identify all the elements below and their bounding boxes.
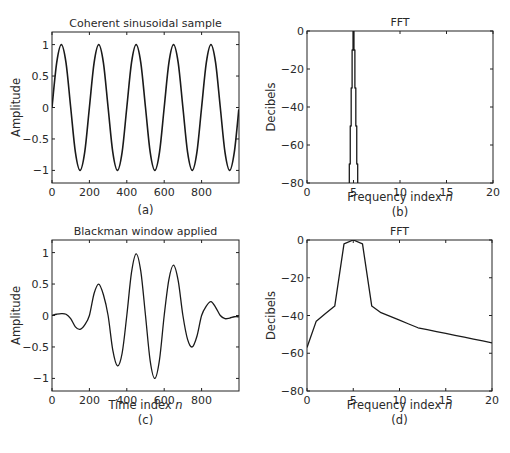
axes-frame xyxy=(307,31,493,183)
y-tick-label: −80 xyxy=(281,177,304,190)
y-tick-label: −1 xyxy=(33,164,49,177)
y-axis-label: Amplitude xyxy=(9,78,23,137)
y-tick-label: 0 xyxy=(42,310,49,323)
y-tick-label: −40 xyxy=(281,310,304,323)
x-tick-label: 0 xyxy=(304,394,311,407)
y-tick-label: 0 xyxy=(297,25,304,38)
panel-caption: (c) xyxy=(138,413,153,427)
y-tick-label: −60 xyxy=(281,139,304,152)
x-axis-label: Time index n xyxy=(107,398,182,412)
panel-b: 051015200−20−40−60−80FFTDecibelsFrequenc… xyxy=(264,16,500,219)
y-tick-label: 0.5 xyxy=(32,278,50,291)
y-tick-label: −20 xyxy=(281,272,304,285)
y-tick-label: −60 xyxy=(281,347,304,360)
panel-d: 051015200−20−40−60−80FFTDecibelsFrequenc… xyxy=(264,225,499,427)
panel-c: 020040060080010.50−0.5−1Blackman window … xyxy=(9,225,239,427)
data-series-line xyxy=(349,31,357,183)
chart-title: Coherent sinusoidal sample xyxy=(69,17,222,30)
chart-title: FFT xyxy=(390,16,409,29)
data-series-line xyxy=(52,45,239,171)
y-tick-label: 0.5 xyxy=(32,70,50,83)
data-series-line xyxy=(307,240,492,348)
x-tick-label: 800 xyxy=(191,186,212,199)
data-series-line xyxy=(52,254,239,379)
y-axis-label: Decibels xyxy=(264,82,278,131)
y-tick-label: 0 xyxy=(42,102,49,115)
x-tick-label: 20 xyxy=(486,186,500,199)
y-tick-label: 0 xyxy=(297,234,304,247)
y-tick-label: 1 xyxy=(42,39,49,52)
axes-frame xyxy=(307,240,492,391)
x-axis-label: Frequency index n xyxy=(347,398,452,412)
y-tick-label: 1 xyxy=(42,247,49,260)
x-tick-label: 800 xyxy=(191,394,212,407)
panel-a: 020040060080010.50−0.5−1Coherent sinusoi… xyxy=(9,17,239,217)
y-tick-label: −80 xyxy=(281,385,304,398)
x-tick-label: 0 xyxy=(304,186,311,199)
y-tick-label: −1 xyxy=(33,372,49,385)
x-tick-label: 0 xyxy=(49,394,56,407)
x-tick-label: 600 xyxy=(154,186,175,199)
chart-title: Blackman window applied xyxy=(74,225,217,238)
y-axis-label: Decibels xyxy=(264,291,278,340)
chart-title: FFT xyxy=(390,225,409,238)
y-tick-label: −0.5 xyxy=(22,133,49,146)
x-tick-label: 200 xyxy=(79,394,100,407)
x-tick-label: 0 xyxy=(49,186,56,199)
x-tick-label: 20 xyxy=(485,394,499,407)
panel-caption: (d) xyxy=(391,413,407,427)
x-tick-label: 200 xyxy=(79,186,100,199)
y-axis-label: Amplitude xyxy=(9,286,23,345)
y-tick-label: −40 xyxy=(281,101,304,114)
x-axis-label: Frequency index n xyxy=(347,190,452,204)
y-tick-label: −20 xyxy=(281,63,304,76)
y-tick-label: −0.5 xyxy=(22,341,49,354)
x-tick-label: 400 xyxy=(116,186,137,199)
panel-caption: (a) xyxy=(137,203,153,217)
figure: 020040060080010.50−0.5−1Coherent sinusoi… xyxy=(0,0,510,453)
panel-caption: (b) xyxy=(392,205,408,219)
